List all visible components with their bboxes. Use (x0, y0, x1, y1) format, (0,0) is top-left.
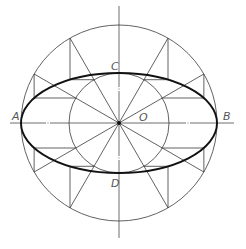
radial-line (34, 123, 119, 172)
label-b: B (223, 111, 231, 122)
radial-line (119, 74, 204, 123)
radial-line (34, 74, 119, 123)
label-c: C (111, 61, 119, 72)
center-axes (10, 6, 234, 238)
label-d: D (111, 178, 119, 189)
radial-line (70, 38, 119, 123)
diagram-canvas (0, 0, 246, 249)
ellipse-construction-diagram: A B C D O (0, 0, 246, 249)
label-a: A (12, 111, 20, 122)
radial-line (70, 123, 119, 208)
center-point (117, 121, 121, 125)
label-o: O (139, 112, 148, 123)
radial-line (119, 123, 168, 208)
radial-line (119, 123, 204, 172)
